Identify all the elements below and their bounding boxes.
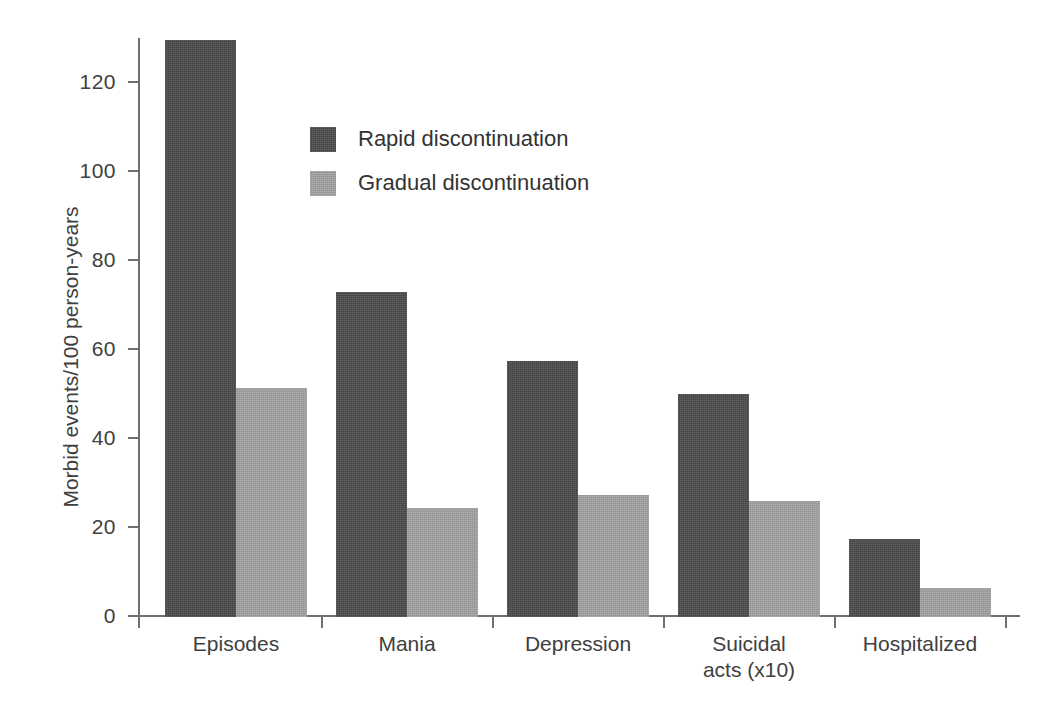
chart-legend: Rapid discontinuationGradual discontinua… [310,117,589,205]
x-axis-tick-label: Mania [378,631,435,657]
y-axis-tick-label: 80 [92,248,116,272]
y-axis-tick-label: 100 [79,159,116,183]
bar [849,539,920,617]
bar [236,388,307,617]
y-axis-tick: 20 [128,526,139,528]
y-axis-title: Morbid events/100 person-years [58,0,84,713]
bar [336,292,407,617]
y-axis-tick-label: 60 [92,337,116,361]
bar [507,361,578,617]
legend-color-swatch [310,127,336,152]
y-axis-title-text: Morbid events/100 person-years [59,206,83,507]
bar [165,40,236,617]
legend-item-label: Gradual discontinuation [358,170,589,196]
y-axis-tick-label: 120 [79,70,116,94]
y-axis-tick-label: 0 [104,604,116,628]
x-axis-tick-label: Suicidal acts (x10) [703,631,795,684]
x-axis-tick-origin [138,617,140,628]
bar [407,508,478,617]
y-axis-tick-label: 20 [92,515,116,539]
bar-chart-figure: Morbid events/100 person-years 020406080… [0,0,1056,713]
bar [678,394,749,617]
x-axis-tick [321,617,323,628]
legend-color-swatch [310,171,336,196]
x-axis-tick-label: Hospitalized [863,631,977,657]
y-axis-line [138,38,140,617]
legend-item: Gradual discontinuation [310,161,589,205]
bar [578,495,649,617]
bar [920,588,991,617]
y-axis-tick-label: 40 [92,426,116,450]
legend-item: Rapid discontinuation [310,117,589,161]
legend-item-label: Rapid discontinuation [358,126,568,152]
x-axis-tick-label: Episodes [193,631,279,657]
bar [749,501,820,617]
y-axis-tick: 40 [128,437,139,439]
y-axis-tick: 100 [128,170,139,172]
y-axis-tick: 120 [128,81,139,83]
x-axis-tick-label: Depression [525,631,631,657]
y-axis-tick: 60 [128,348,139,350]
x-axis-tick [834,617,836,628]
x-axis-tick [492,617,494,628]
x-axis-tick [1005,617,1007,628]
y-axis-tick: 80 [128,259,139,261]
x-axis-tick [663,617,665,628]
